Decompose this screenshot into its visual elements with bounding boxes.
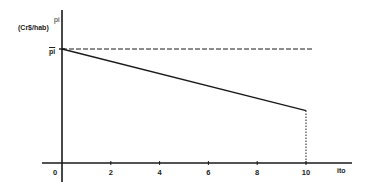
series-line (62, 49, 306, 111)
x-tick-label: 6 (206, 168, 210, 177)
x-tick-label: 10 (302, 168, 310, 177)
x-tick-label: 8 (255, 168, 259, 177)
y-axis-symbol: pi (54, 16, 59, 23)
x-tick-labels: 0246810 (53, 168, 310, 177)
x-tick-label: 2 (109, 168, 113, 177)
y-axis-unit: (Cr$/hab) (18, 24, 49, 31)
chart: 0246810 (0, 0, 370, 190)
plot-series (62, 49, 313, 163)
x-tick-label: 0 (53, 168, 57, 177)
y-ref-label: pi (49, 48, 55, 55)
x-tick-label: 4 (158, 168, 163, 177)
x-axis-label: ito (337, 167, 346, 174)
